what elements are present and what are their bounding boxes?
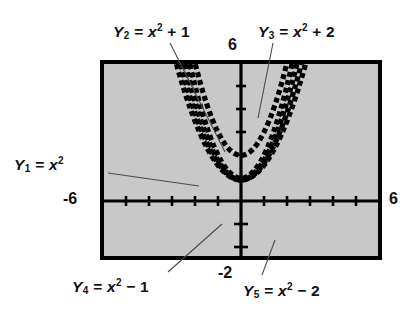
y-axis-max-label: 6	[228, 36, 237, 54]
callout-label-y3: Y3 = x2 + 2	[258, 22, 335, 41]
callout-label-y1: Y1 = x2	[14, 155, 64, 174]
callout-label-y4: Y4 = x2 − 1	[72, 277, 149, 296]
y-axis-min-label: -2	[218, 264, 232, 282]
parabola-translation-figure: Y2 = x2 + 1 Y3 = x2 + 2 Y1 = x2 Y4 = x2 …	[0, 0, 409, 313]
x-axis-min-label: -6	[63, 190, 77, 208]
callout-label-y5: Y5 = x2 − 2	[243, 281, 320, 300]
x-axis-max-label: 6	[389, 190, 398, 208]
callout-label-y2: Y2 = x2 + 1	[113, 22, 190, 41]
